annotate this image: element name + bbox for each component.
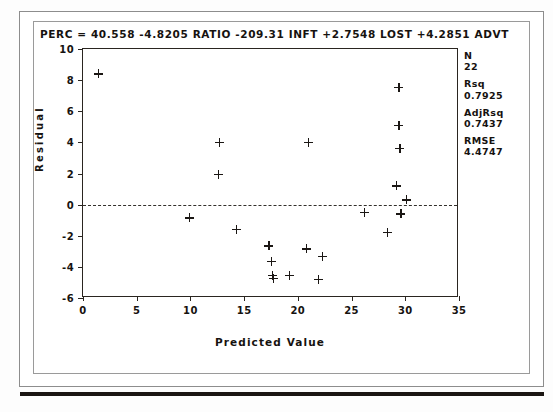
statistic-name: AdjRsq xyxy=(464,107,522,118)
x-axis-tick-label: 10 xyxy=(183,305,198,316)
data-point xyxy=(269,274,278,283)
y-axis-label: Residual xyxy=(34,106,45,172)
x-axis-tick xyxy=(298,296,299,301)
x-axis-tick xyxy=(459,296,460,301)
x-axis-tick xyxy=(137,296,138,301)
y-axis-tick-label: 2 xyxy=(67,168,74,179)
data-point xyxy=(285,271,294,280)
data-point xyxy=(360,208,369,217)
y-axis-tick-label: -2 xyxy=(62,230,74,241)
scanned-page: PERC = 40.558 -4.8205 RATIO -209.31 INFT… xyxy=(0,0,553,412)
x-axis-tick xyxy=(190,296,191,301)
statistic-rmse: RMSE4.4747 xyxy=(464,135,522,157)
y-axis-tick xyxy=(78,174,83,175)
y-axis-tick xyxy=(78,205,83,206)
x-axis-tick-label: 20 xyxy=(290,305,305,316)
statistic-name: RMSE xyxy=(464,135,522,146)
statistic-n: N22 xyxy=(464,50,522,72)
data-point xyxy=(232,225,241,234)
statistic-value: 22 xyxy=(464,61,522,72)
data-point xyxy=(304,138,313,147)
statistic-value: 4.4747 xyxy=(464,146,522,157)
statistic-name: N xyxy=(464,50,522,61)
x-axis-tick xyxy=(352,296,353,301)
x-axis-tick xyxy=(83,296,84,301)
data-point xyxy=(94,69,103,78)
data-point xyxy=(215,138,224,147)
statistic-adjrsq: AdjRsq0.7437 xyxy=(464,107,522,129)
data-point xyxy=(392,181,401,190)
x-axis-label: Predicted Value xyxy=(82,336,458,348)
data-point xyxy=(394,121,403,130)
x-axis-tick-label: 30 xyxy=(398,305,413,316)
y-axis-tick xyxy=(78,111,83,112)
y-axis-tick-label: 8 xyxy=(67,75,74,86)
y-axis-tick-label: -4 xyxy=(62,261,74,272)
data-point xyxy=(185,213,194,222)
data-point xyxy=(402,195,411,204)
x-axis-tick xyxy=(244,296,245,301)
statistic-name: Rsq xyxy=(464,78,522,89)
x-axis-tick-label: 25 xyxy=(344,305,359,316)
page-edge-shadow xyxy=(20,392,544,396)
x-axis-tick-label: 5 xyxy=(133,305,140,316)
data-point xyxy=(314,275,323,284)
data-point xyxy=(214,170,223,179)
data-point xyxy=(394,83,403,92)
data-point xyxy=(302,244,311,253)
data-point xyxy=(395,144,404,153)
y-axis-tick-label: -6 xyxy=(62,293,74,304)
y-axis-tick-label: 0 xyxy=(67,199,74,210)
x-axis-tick xyxy=(405,296,406,301)
data-point xyxy=(383,228,392,237)
y-axis-tick xyxy=(78,142,83,143)
y-axis-tick xyxy=(78,80,83,81)
data-point xyxy=(318,252,327,261)
y-axis-tick xyxy=(78,49,83,50)
data-point xyxy=(396,209,405,218)
y-axis-tick-label: 6 xyxy=(67,106,74,117)
statistics-panel: N22Rsq0.7925AdjRsq0.7437RMSE4.4747 xyxy=(464,50,522,164)
y-axis-tick xyxy=(78,267,83,268)
statistic-value: 0.7437 xyxy=(464,118,522,129)
x-axis-tick-label: 35 xyxy=(452,305,467,316)
x-axis-tick-label: 15 xyxy=(237,305,252,316)
data-point xyxy=(264,241,273,250)
zero-reference-line xyxy=(83,205,457,206)
y-axis-tick xyxy=(78,236,83,237)
x-axis-tick-label: 0 xyxy=(79,305,86,316)
data-point xyxy=(267,257,276,266)
statistic-rsq: Rsq0.7925 xyxy=(464,78,522,100)
y-axis-tick-label: 10 xyxy=(59,44,74,55)
y-axis-tick-label: 4 xyxy=(67,137,74,148)
model-equation: PERC = 40.558 -4.8205 RATIO -209.31 INFT… xyxy=(40,28,509,40)
statistic-value: 0.7925 xyxy=(464,90,522,101)
scatter-plot-area: 1086420-2-4-6 05101520253035 xyxy=(82,48,458,297)
